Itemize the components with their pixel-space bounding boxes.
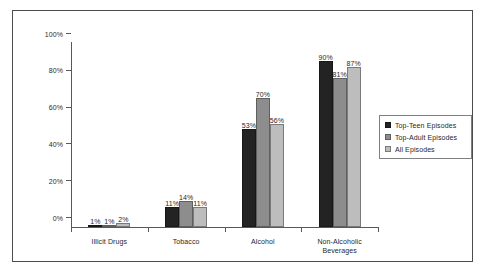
bar: 87% — [347, 67, 361, 227]
bar-value-label: 53% — [242, 122, 256, 129]
bar-value-label: 81% — [332, 71, 346, 78]
plot-area: 1%1%2%11%14%11%53%70%56%90%81%87% — [71, 43, 378, 227]
bar: 56% — [270, 124, 284, 227]
legend-item-label: Top-Adult Episodes — [395, 134, 457, 141]
bar-value-label: 2% — [118, 216, 128, 223]
x-axis-tick — [378, 227, 379, 232]
bar: 1% — [88, 225, 102, 227]
legend-item: Top-Teen Episodes — [385, 120, 467, 130]
y-axis-tick-label: 100% — [45, 30, 63, 37]
bar-value-label: 11% — [193, 200, 207, 207]
bar-value-label: 70% — [256, 91, 270, 98]
bar: 81% — [333, 78, 347, 227]
x-axis-tick — [301, 227, 302, 232]
legend-item-label: Top-Teen Episodes — [395, 122, 456, 129]
y-axis-tick-label: 60% — [49, 104, 63, 111]
bar-value-label: 1% — [104, 218, 114, 225]
bar: 70% — [256, 98, 270, 227]
y-axis-tick-label: 80% — [49, 67, 63, 74]
bar: 11% — [165, 207, 179, 227]
x-axis-tick — [148, 227, 149, 232]
x-axis-tick — [71, 227, 72, 232]
legend-item: All Episodes — [385, 144, 467, 154]
y-axis-tick: 100% — [66, 33, 71, 34]
legend-item-label: All Episodes — [395, 146, 435, 153]
bar-value-label: 90% — [318, 54, 332, 61]
x-axis-category-label: Non-Alcoholic Beverages — [317, 237, 362, 255]
legend-item: Top-Adult Episodes — [385, 132, 467, 142]
bar: 1% — [102, 225, 116, 227]
bar: 14% — [179, 201, 193, 227]
legend-swatch-icon — [385, 146, 391, 152]
y-axis-tick-label: 0% — [53, 214, 63, 221]
bar-value-label: 56% — [270, 117, 284, 124]
bar: 2% — [116, 223, 130, 227]
y-axis-tick-label: 40% — [49, 140, 63, 147]
legend-swatch-icon — [385, 134, 391, 140]
chart-legend: Top-Teen EpisodesTop-Adult EpisodesAll E… — [379, 115, 472, 159]
bar-value-label: 11% — [165, 200, 179, 207]
x-axis-category-label: Alcohol — [251, 237, 275, 246]
x-axis-category-label: Illicit Drugs — [92, 237, 128, 246]
chart-screenshot: 0%20%40%60%80%100% 1%1%2%11%14%11%53%70%… — [0, 0, 486, 274]
legend-swatch-icon — [385, 122, 391, 128]
bar-value-label: 1% — [90, 218, 100, 225]
bar-value-label: 14% — [179, 194, 193, 201]
bar: 11% — [193, 207, 207, 227]
y-axis-tick-label: 20% — [49, 177, 63, 184]
chart-frame: 0%20%40%60%80%100% 1%1%2%11%14%11%53%70%… — [12, 10, 473, 262]
bar: 53% — [242, 129, 256, 227]
x-axis-category-label: Tobacco — [173, 237, 200, 246]
bar-value-label: 87% — [346, 60, 360, 67]
bar: 90% — [319, 61, 333, 227]
x-axis-tick — [225, 227, 226, 232]
